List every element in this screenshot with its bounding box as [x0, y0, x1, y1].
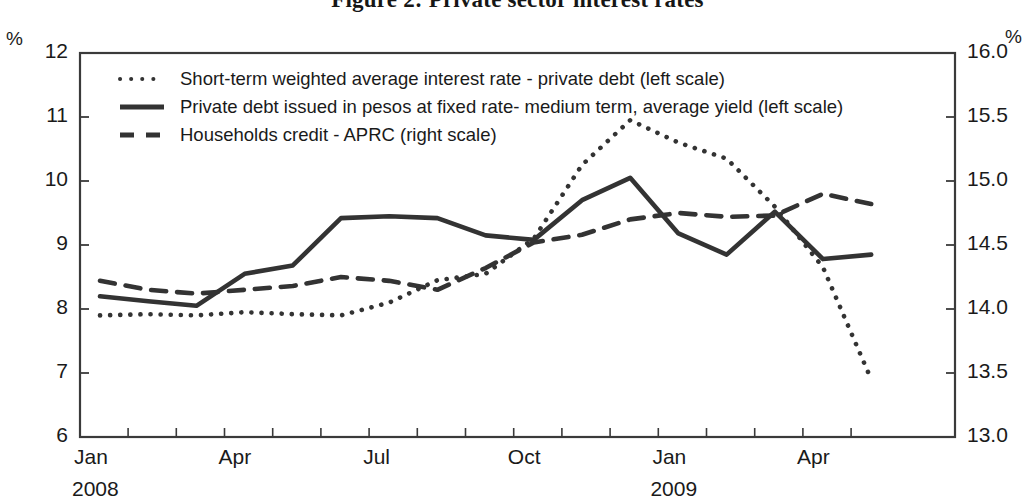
- legend-item-private-debt: Private debt issued in pesos at fixed ra…: [118, 94, 878, 120]
- xtick-label-4: Jan: [652, 445, 712, 469]
- legend-swatch-dashed-icon: [118, 128, 166, 142]
- left-tick-label-12: 12: [18, 39, 68, 63]
- series-line-dashed: [100, 194, 871, 294]
- xtick-label-1: Apr: [219, 445, 279, 469]
- xtick-label-5: Apr: [797, 445, 857, 469]
- legend-label-private-debt: Private debt issued in pesos at fixed ra…: [180, 96, 843, 118]
- series-line-solid: [100, 178, 871, 306]
- xtick-label-3: Oct: [508, 445, 568, 469]
- legend-swatch-dotted-icon: [118, 72, 166, 86]
- right-tick-label-13: 13.0: [967, 423, 1035, 447]
- legend-label-short-term: Short-term weighted average interest rat…: [180, 68, 725, 90]
- right-tick-label-14: 14.0: [967, 295, 1035, 319]
- left-tick-label-11: 11: [18, 103, 68, 127]
- figure-container: Figure 2: Private sector interest rates …: [0, 0, 1035, 501]
- right-tick-label-15.5: 15.5: [967, 103, 1035, 127]
- right-tick-label-15: 15.0: [967, 167, 1035, 191]
- xyear-label-1: 2009: [650, 477, 720, 501]
- right-tick-label-16: 16.0: [967, 39, 1035, 63]
- left-tick-label-6: 6: [18, 423, 68, 447]
- series-line-dotted: [100, 120, 871, 379]
- left-tick-label-8: 8: [18, 295, 68, 319]
- left-tick-label-7: 7: [18, 359, 68, 383]
- chart-legend: Short-term weighted average interest rat…: [118, 66, 878, 150]
- xtick-label-2: Jul: [363, 445, 423, 469]
- left-tick-label-10: 10: [18, 167, 68, 191]
- xyear-label-0: 2008: [72, 477, 142, 501]
- data-series-group: [100, 120, 871, 379]
- left-tick-label-9: 9: [18, 231, 68, 255]
- xtick-label-0: Jan: [74, 445, 134, 469]
- right-tick-label-13.5: 13.5: [967, 359, 1035, 383]
- legend-item-households: Households credit - APRC (right scale): [118, 122, 878, 148]
- legend-item-short-term: Short-term weighted average interest rat…: [118, 66, 878, 92]
- right-tick-label-14.5: 14.5: [967, 231, 1035, 255]
- legend-label-households: Households credit - APRC (right scale): [180, 124, 497, 146]
- legend-swatch-solid-icon: [118, 100, 166, 114]
